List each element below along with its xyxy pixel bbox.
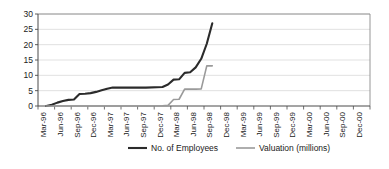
x-tick-label: Sep-00	[338, 111, 347, 137]
x-tick-label: Jun-00	[322, 111, 331, 136]
x-tick-label: Mar-97	[106, 111, 115, 137]
x-tick-label: Jun-98	[189, 111, 198, 136]
x-tick-label: Jun-99	[255, 111, 264, 136]
x-tick-label: Mar-98	[172, 111, 181, 137]
y-tick-label: 5	[28, 86, 33, 96]
y-tick-label: 15	[24, 55, 34, 65]
x-tick-label: Dec-00	[355, 111, 364, 137]
x-tick-label: Mar-99	[239, 111, 248, 137]
x-tick-label: Sep-96	[73, 111, 82, 137]
chart-legend: No. of EmployeesValuation (millions)	[128, 143, 330, 153]
x-tick-label: Sep-99	[272, 111, 281, 137]
x-tick-label: Mar-00	[305, 111, 314, 137]
y-tick-label: 10	[24, 70, 34, 80]
x-axis-tick-labels: Mar-96Jun-96Sep-96Dec-96Mar-97Jun-97Sep-…	[39, 111, 363, 137]
x-tick-label: Mar-96	[39, 111, 48, 137]
y-tick-label: 20	[24, 40, 34, 50]
chart-container: 051015202530 Mar-96Jun-96Sep-96Dec-96Mar…	[0, 0, 389, 169]
legend-label-1: No. of Employees	[151, 143, 218, 153]
line-chart: 051015202530 Mar-96Jun-96Sep-96Dec-96Mar…	[0, 0, 389, 169]
x-tick-label: Dec-99	[288, 111, 297, 137]
x-tick-label: Sep-97	[139, 111, 148, 137]
x-tick-label: Sep-98	[205, 111, 214, 137]
y-axis-tick-labels: 051015202530	[24, 9, 34, 111]
y-tick-label: 25	[24, 24, 34, 34]
x-tick-label: Dec-98	[222, 111, 231, 137]
legend-label-2: Valuation (millions)	[259, 143, 330, 153]
y-tick-label: 0	[28, 101, 33, 111]
series-line-1	[46, 23, 212, 106]
x-tick-label: Dec-97	[156, 111, 165, 137]
x-tick-label: Jun-97	[122, 111, 131, 136]
x-tick-label: Jun-96	[56, 111, 65, 136]
data-series-lines	[46, 23, 212, 106]
x-tick-label: Dec-96	[89, 111, 98, 137]
y-tick-label: 30	[24, 9, 34, 19]
